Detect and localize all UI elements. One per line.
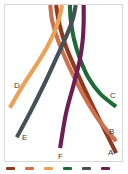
- curve-endpoint-label-a: A: [108, 149, 113, 157]
- legend-swatch: [25, 167, 34, 170]
- curve-endpoint-label-c: C: [110, 92, 116, 100]
- legend-swatch: [6, 167, 15, 170]
- legend-swatch: [82, 167, 91, 170]
- legend-swatch: [63, 167, 72, 170]
- chart-screenshot: A B C D E F: [0, 0, 128, 174]
- curves-group: [10, 5, 116, 153]
- chart-legend: [4, 165, 124, 174]
- curve-endpoint-label-f: F: [58, 153, 63, 161]
- curve-endpoint-label-b: B: [109, 128, 114, 136]
- curve-endpoint-label-d: D: [14, 82, 20, 90]
- curve-endpoint-label-e: E: [22, 134, 27, 142]
- legend-swatch: [44, 167, 53, 170]
- legend-swatch: [101, 167, 110, 170]
- plot-figure: A B C D E F: [4, 4, 123, 162]
